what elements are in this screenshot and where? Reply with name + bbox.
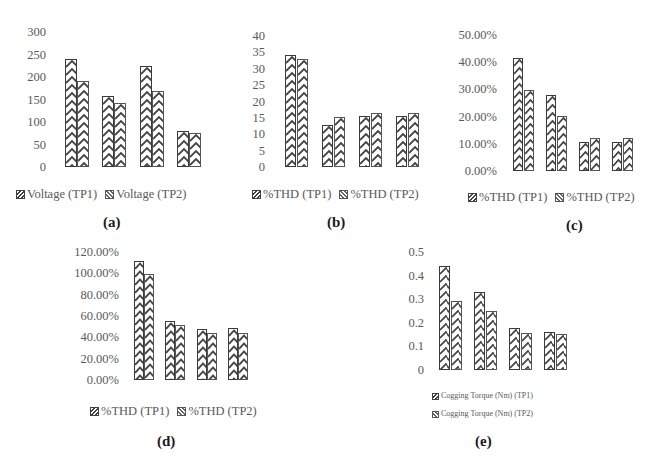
legend-item-tp2: %THD (TP2) xyxy=(339,187,418,201)
bar-tp1 xyxy=(134,261,144,380)
legend-swatch-icon xyxy=(468,193,477,202)
legend-item-tp1: %THD (TP1) xyxy=(252,187,331,201)
bar-tp1 xyxy=(359,116,371,167)
bar-tp2 xyxy=(556,334,567,370)
legend-item-tp2: Voltage (TP2) xyxy=(105,187,186,201)
y-tick-label: 50.00% xyxy=(437,29,497,41)
bar-tp1 xyxy=(544,332,555,370)
y-tick-label: 0.00% xyxy=(437,165,497,177)
bar-tp1 xyxy=(285,55,297,167)
figure-caption-c: (c) xyxy=(566,217,583,234)
legend-item-tp1: Cogging Torque (Nm) (TP1) xyxy=(432,391,533,401)
y-tick-label: 40 xyxy=(205,30,265,42)
bar-tp2 xyxy=(297,59,309,167)
legend-swatch-icon xyxy=(339,190,348,199)
y-tick-label: 0.00% xyxy=(59,374,119,386)
figure-caption-e: (e) xyxy=(475,433,492,450)
legend-item-tp1: %THD (TP1) xyxy=(90,404,169,418)
y-tick-label: 0.4 xyxy=(364,270,424,282)
bar-tp2 xyxy=(334,117,346,167)
y-tick-label: 100.00% xyxy=(59,267,119,279)
figure-caption-b: (b) xyxy=(327,214,345,231)
bar-tp2 xyxy=(175,325,185,380)
bar-tp2 xyxy=(207,333,217,380)
bar-tp2 xyxy=(77,81,89,167)
legend-label: %THD (TP1) xyxy=(479,190,547,204)
bar-tp1 xyxy=(197,329,207,380)
y-tick-label: 30.00% xyxy=(437,83,497,95)
y-tick-label: 0.3 xyxy=(364,293,424,305)
y-tick-label: 60.00% xyxy=(59,310,119,322)
plot-area-d xyxy=(128,252,254,380)
legend-label: %THD (TP1) xyxy=(263,187,331,201)
legend-e: Cogging Torque (Nm) (TP1)Cogging Torque … xyxy=(432,391,541,427)
y-tick-label: 0 xyxy=(205,161,265,173)
bar-tp1 xyxy=(579,142,590,171)
bar-tp2 xyxy=(152,91,164,168)
legend-swatch-icon xyxy=(177,407,186,416)
y-tick-label: 0 xyxy=(364,364,424,376)
y-tick-label: 5 xyxy=(205,145,265,157)
y-tick-label: 120.00% xyxy=(59,246,119,258)
y-tick-label: 20.00% xyxy=(59,353,119,365)
bar-tp2 xyxy=(371,113,383,167)
bar-tp1 xyxy=(396,116,408,167)
y-tick-label: 250 xyxy=(0,49,46,61)
legend-swatch-icon xyxy=(432,411,439,418)
legend-c: %THD (TP1)%THD (TP2) xyxy=(468,190,643,205)
bar-tp2 xyxy=(623,138,634,171)
bar-tp1 xyxy=(140,66,152,167)
legend-label: Voltage (TP1) xyxy=(27,187,97,201)
bar-tp2 xyxy=(238,333,248,380)
plot-area-b xyxy=(278,36,426,167)
y-tick-label: 50 xyxy=(0,139,46,151)
legend-swatch-icon xyxy=(16,190,25,199)
bar-tp1 xyxy=(546,95,557,171)
bar-tp1 xyxy=(102,96,114,167)
legend-item-tp2: %THD (TP2) xyxy=(555,190,634,204)
plot-area-c xyxy=(507,35,639,171)
bar-tp2 xyxy=(524,90,535,171)
bar-tp2 xyxy=(486,311,497,370)
y-tick-label: 10 xyxy=(205,128,265,140)
y-tick-label: 0.5 xyxy=(364,246,424,258)
y-tick-label: 150 xyxy=(0,94,46,106)
bar-tp1 xyxy=(612,142,623,171)
legend-swatch-icon xyxy=(555,193,564,202)
legend-label: Cogging Torque (Nm) (TP1) xyxy=(441,391,533,401)
y-tick-label: 10.00% xyxy=(437,138,497,150)
figure-caption-a: (a) xyxy=(103,214,121,231)
bar-tp2 xyxy=(144,274,154,380)
legend-a: Voltage (TP1)Voltage (TP2) xyxy=(16,187,195,202)
bar-tp2 xyxy=(408,113,420,167)
legend-item-tp2: %THD (TP2) xyxy=(177,404,256,418)
legend-item-tp1: %THD (TP1) xyxy=(468,190,547,204)
legend-swatch-icon xyxy=(105,190,114,199)
bar-tp1 xyxy=(228,328,238,380)
legend-b: %THD (TP1)%THD (TP2) xyxy=(252,187,427,202)
y-tick-label: 0.1 xyxy=(364,340,424,352)
bar-tp1 xyxy=(65,59,77,167)
y-tick-label: 25 xyxy=(205,79,265,91)
legend-item-tp1: Voltage (TP1) xyxy=(16,187,97,201)
y-tick-label: 40.00% xyxy=(59,331,119,343)
legend-label: %THD (TP2) xyxy=(350,187,418,201)
bar-tp2 xyxy=(521,333,532,370)
y-tick-label: 0.2 xyxy=(364,317,424,329)
legend-swatch-icon xyxy=(90,407,99,416)
bar-tp1 xyxy=(165,321,175,380)
bar-tp2 xyxy=(451,301,462,370)
legend-swatch-icon xyxy=(252,190,261,199)
legend-label: Cogging Torque (Nm) (TP2) xyxy=(441,409,533,419)
bar-tp2 xyxy=(189,133,201,167)
bar-tp1 xyxy=(177,131,189,167)
y-tick-label: 80.00% xyxy=(59,289,119,301)
bar-tp1 xyxy=(474,292,485,370)
legend-swatch-icon xyxy=(432,393,439,400)
y-tick-label: 300 xyxy=(0,26,46,38)
y-tick-label: 20 xyxy=(205,96,265,108)
y-tick-label: 0 xyxy=(0,161,46,173)
legend-label: Voltage (TP2) xyxy=(116,187,186,201)
bar-tp1 xyxy=(322,125,334,167)
legend-item-tp2: Cogging Torque (Nm) (TP2) xyxy=(432,409,533,419)
